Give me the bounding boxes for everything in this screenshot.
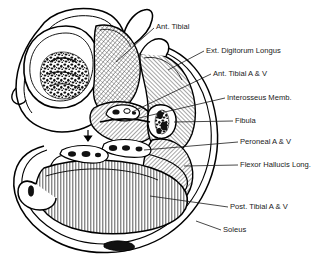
label-fibula: Fibula [235, 116, 256, 125]
label-interosseus-memb: Interosseus Memb. [227, 93, 292, 102]
tibia-bone [24, 26, 99, 108]
anatomical-figure: Ant. Tibial Ext. Digitorum Longus Ant. T… [0, 0, 329, 268]
label-ext-digitorum-longus: Ext. Digitorum Longus [206, 46, 281, 55]
label-soleus: Soleus [223, 225, 246, 234]
label-ant-tibial-a-v: Ant. Tibial A & V [213, 69, 268, 78]
label-peroneal-a-v: Peroneal A & V [240, 137, 292, 146]
label-post-tibial-a-v: Post. Tibial A & V [230, 202, 289, 211]
leg-cross-section-svg: Ant. Tibial Ext. Digitorum Longus Ant. T… [0, 0, 329, 268]
fibula-bone [148, 105, 176, 139]
soleus-vessel [28, 186, 33, 196]
label-flexor-hallucis-long: Flexor Hallucis Long. [240, 160, 311, 169]
tibia-marrow [40, 52, 89, 99]
label-ant-tibial: Ant. Tibial [156, 22, 190, 31]
